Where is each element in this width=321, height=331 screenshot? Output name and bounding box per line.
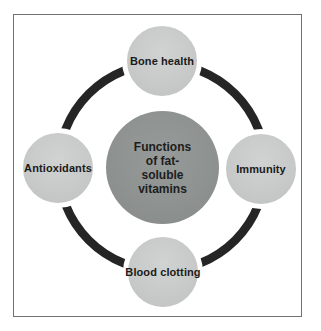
node-blood-clotting: Blood clotting (123, 232, 203, 312)
diagram-canvas: Functions of fat- soluble vitamins Bone … (0, 0, 321, 331)
node-immunity: Immunity (221, 129, 301, 209)
center-node: Functions of fat- soluble vitamins (106, 111, 219, 224)
center-node-line-4: vitamins (138, 182, 187, 196)
node-antioxidants-label: Antioxidants (24, 162, 92, 174)
node-antioxidants: Antioxidants (18, 128, 98, 208)
node-bone-health-label: Bone health (130, 55, 194, 67)
center-node-line-1: Functions (134, 140, 191, 154)
center-node-line-2: of fat- (146, 154, 179, 168)
node-blood-clotting-label: Blood clotting (125, 266, 200, 278)
center-node-line-3: soluble (141, 168, 183, 182)
node-bone-health: Bone health (122, 21, 202, 101)
node-immunity-label: Immunity (236, 163, 286, 175)
